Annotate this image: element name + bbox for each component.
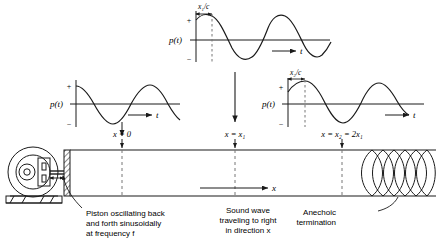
caption-piston: Piston oscillating back and forth sinuso… xyxy=(86,209,166,238)
plot-x1-plus-sign: + xyxy=(186,16,191,25)
label-x1: x = x₁ xyxy=(224,129,246,139)
wedge-6 xyxy=(417,150,436,196)
acoustics-diagram: x₁/c + − p(t) t + − p(t) t x₂/c + − p(t) xyxy=(0,0,440,247)
figure-canvas: x₁/c + − p(t) t + − p(t) t x₂/c + − p(t) xyxy=(0,0,440,247)
motor-drive xyxy=(6,147,64,203)
plot-x0: + − p(t) t xyxy=(49,80,180,136)
plot-x2: x₂/c + − p(t) t xyxy=(261,68,424,129)
plot-x1-pressure-label: p(t) xyxy=(168,35,182,45)
x-direction-label: x xyxy=(271,183,276,193)
caption-termination-line-2: termination xyxy=(296,218,336,227)
tube xyxy=(64,150,436,196)
caption-wave: Sound wave traveling to right in directi… xyxy=(220,206,278,235)
plot-x1: x₁/c + − p(t) t xyxy=(168,2,331,64)
plot-x1-time-label: t xyxy=(300,46,303,56)
anechoic-termination xyxy=(362,150,436,196)
caption-piston-line-2: and forth sinusoidally xyxy=(86,219,161,228)
motor-shaft-hub xyxy=(19,164,35,180)
plot-x2-minus-sign: − xyxy=(278,120,283,129)
caption-termination-line-1: Anechoic xyxy=(303,208,336,217)
caption-termination: Anechoic termination xyxy=(296,208,336,227)
plot-x1-waveform xyxy=(196,15,331,60)
plot-x0-time-label: t xyxy=(156,110,159,120)
plot-x2-plus-sign: + xyxy=(278,83,283,92)
piston-face xyxy=(64,150,70,196)
crank-pin-lower xyxy=(42,175,46,182)
termination-caption-leader xyxy=(378,197,398,211)
label-x0: x = 0 xyxy=(112,129,132,139)
motor-rotor xyxy=(16,155,50,189)
plot-x0-pressure-label: p(t) xyxy=(49,99,63,109)
caption-piston-line-3: at frequency f xyxy=(86,229,135,238)
plot-x1-delay-label: x₁/c xyxy=(197,2,210,11)
plot-x0-minus-sign: − xyxy=(66,120,71,129)
plot-x2-pressure-label: p(t) xyxy=(261,99,275,109)
caption-wave-line-3: in direction x xyxy=(226,226,271,235)
caption-wave-line-1: Sound wave xyxy=(226,206,271,215)
plot-x2-time-label: t xyxy=(413,110,416,120)
caption-piston-line-1: Piston oscillating back xyxy=(86,209,166,218)
motor-shaft xyxy=(24,169,30,175)
plot-x2-waveform xyxy=(288,81,409,123)
plot-x1-minus-sign: − xyxy=(186,55,191,64)
label-x2: x = x₂ = 2x₁ xyxy=(320,129,362,139)
plot-x0-plus-sign: + xyxy=(66,82,71,91)
plot-x2-delay-label: x₂/c xyxy=(289,68,302,77)
caption-wave-line-2: traveling to right xyxy=(220,216,278,225)
crank-pin-upper xyxy=(42,163,46,170)
